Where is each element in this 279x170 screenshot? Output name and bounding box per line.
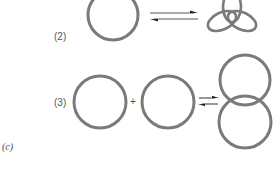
reaction-label-2: (2) (54, 31, 66, 42)
catenane-icon (219, 55, 271, 148)
circle-icon (142, 76, 194, 128)
panel-label: (c) (2, 141, 14, 153)
equilibrium-arrows-icon (150, 11, 198, 22)
circle-icon (74, 76, 126, 128)
trefoil-knot-icon (205, 0, 259, 35)
reaction-3: (3) + (54, 55, 271, 148)
reaction-label-3: (3) (54, 97, 66, 108)
equilibrium-arrows-icon (198, 96, 219, 106)
circle-icon (88, 0, 138, 40)
knot-diagram: (2) (3) + (c) (0, 0, 279, 170)
plus-sign: + (130, 96, 136, 107)
reaction-2: (2) (54, 0, 259, 42)
